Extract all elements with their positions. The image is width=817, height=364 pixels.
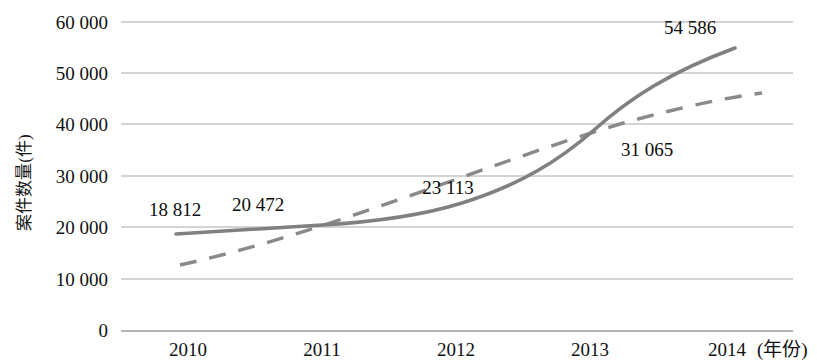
x-axis-unit-label: (年份)	[757, 340, 808, 359]
data-label: 20 472	[188, 195, 328, 214]
x-axis-tick-label: 2012	[406, 340, 506, 359]
data-label: 23 113	[378, 178, 518, 197]
x-axis-tick-label: 2010	[138, 340, 238, 359]
data-label: 31 065	[577, 140, 717, 159]
x-axis-tick-label: 2011	[272, 340, 372, 359]
data-label: 54 586	[620, 18, 760, 37]
x-axis-tick-label: 2013	[540, 340, 640, 359]
line-chart: 案件数量(件) 60 000 50 000 40 000 30 000 20 0…	[0, 0, 817, 364]
